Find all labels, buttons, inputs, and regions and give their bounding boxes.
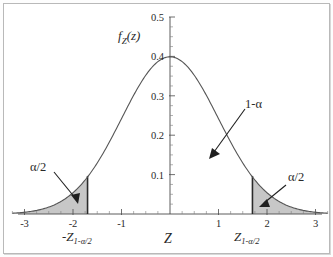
y-axis-tick-label: 0.1 bbox=[151, 170, 164, 181]
right-critical-value-label: Z1-α/2 bbox=[234, 229, 260, 246]
y-axis-tick-labels: 0.50.40.30.20.1 bbox=[151, 12, 165, 181]
x-axis-tick-label: -1 bbox=[117, 218, 126, 229]
x-axis-tick-label: -3 bbox=[20, 218, 29, 229]
x-axis-tick-labels: -3-2-1123 bbox=[20, 218, 318, 229]
left-tail-alpha-label: α/2 bbox=[30, 160, 46, 174]
y-axis-tick-label: 0.2 bbox=[151, 130, 164, 141]
center-arrow-head bbox=[209, 148, 220, 159]
y-axis-tick-label: 0.3 bbox=[151, 91, 164, 102]
x-axis-label: Z bbox=[164, 231, 172, 246]
normal-distribution-plot: 0.50.40.30.20.1 -3-2-1123 fZ(z) Z -Z1-α/… bbox=[0, 0, 333, 257]
y-axis-label: fZ(z) bbox=[118, 28, 140, 46]
x-axis-tick-label: 2 bbox=[264, 218, 269, 229]
left-critical-value-label: -Z1-α/2 bbox=[62, 229, 92, 246]
center-confidence-label: 1-α bbox=[245, 97, 262, 111]
x-axis-tick-label: 3 bbox=[313, 218, 318, 229]
figure-root: 0.50.40.30.20.1 -3-2-1123 fZ(z) Z -Z1-α/… bbox=[0, 0, 333, 257]
y-axis-tick-label: 0.5 bbox=[151, 12, 164, 23]
x-axis-tick-label: -2 bbox=[69, 218, 78, 229]
right-tail-alpha-label: α/2 bbox=[288, 170, 304, 184]
y-axis-tick-label: 0.4 bbox=[151, 51, 165, 62]
x-axis-tick-label: 1 bbox=[216, 218, 221, 229]
center-arrow-line bbox=[214, 109, 245, 152]
